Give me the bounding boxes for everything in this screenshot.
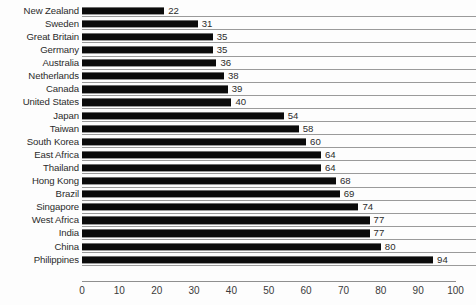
plot-area: New Zealand22Sweden31Great Britain35Germ…: [0, 0, 476, 281]
chart-row: Japan54: [0, 109, 476, 122]
bar: [82, 112, 284, 119]
bar: [82, 177, 336, 184]
category-label: Brazil: [0, 189, 79, 199]
bar: [82, 151, 321, 158]
x-tick-label: 80: [375, 285, 386, 297]
x-tick-label: 20: [151, 285, 162, 297]
chart-row: Canada39: [0, 83, 476, 96]
x-tick-label: 10: [114, 285, 125, 297]
chart-row: Hong Kong68: [0, 175, 476, 188]
chart-row: India77: [0, 227, 476, 240]
bar: [82, 217, 370, 224]
category-label: East Africa: [0, 150, 79, 160]
value-label: 74: [362, 202, 373, 212]
value-label: 77: [374, 215, 385, 225]
chart-row: Netherlands38: [0, 70, 476, 83]
chart-row: Great Britain35: [0, 30, 476, 43]
value-label: 58: [303, 124, 314, 134]
x-tick-label: 100: [447, 285, 464, 297]
x-tick-label: 30: [188, 285, 199, 297]
category-label: South Korea: [0, 137, 79, 147]
value-label: 80: [385, 242, 396, 252]
value-label: 64: [325, 150, 336, 160]
category-label: Thailand: [0, 163, 79, 173]
category-label: India: [0, 228, 79, 238]
chart-row: Sweden31: [0, 17, 476, 30]
chart-row: Australia36: [0, 57, 476, 70]
bar: [82, 256, 433, 263]
category-label: Japan: [0, 111, 79, 121]
value-label: 31: [202, 19, 213, 29]
bar: [82, 191, 340, 198]
category-label: Sweden: [0, 19, 79, 29]
chart-row: China80: [0, 240, 476, 253]
category-label: Taiwan: [0, 124, 79, 134]
chart-row: Singapore74: [0, 201, 476, 214]
chart-row: East Africa64: [0, 148, 476, 161]
value-label: 22: [168, 6, 179, 16]
bar: [82, 204, 358, 211]
x-tick-label: 70: [338, 285, 349, 297]
bar: [82, 60, 216, 67]
category-label: New Zealand: [0, 6, 79, 16]
value-label: 64: [325, 163, 336, 173]
value-label: 94: [437, 255, 448, 265]
x-tick-label: 50: [263, 285, 274, 297]
category-label: Hong Kong: [0, 176, 79, 186]
bar: [82, 33, 213, 40]
category-label: Australia: [0, 58, 79, 68]
chart-row: Thailand64: [0, 161, 476, 174]
bar: [82, 99, 231, 106]
gridline: [82, 265, 476, 266]
value-label: 36: [220, 58, 231, 68]
bar: [82, 46, 213, 53]
x-tick-label: 60: [301, 285, 312, 297]
value-label: 77: [374, 228, 385, 238]
value-label: 60: [310, 137, 321, 147]
chart-row: United States40: [0, 96, 476, 109]
chart-row: Brazil69: [0, 188, 476, 201]
category-label: West Africa: [0, 215, 79, 225]
bar: [82, 138, 306, 145]
value-label: 35: [217, 32, 228, 42]
x-axis-line: [82, 281, 456, 282]
value-label: 40: [235, 97, 246, 107]
x-axis-ticks: 0102030405060708090100: [0, 283, 476, 303]
x-tick-label: 0: [79, 285, 85, 297]
value-label: 69: [344, 189, 355, 199]
category-label: Canada: [0, 84, 79, 94]
chart-row: Germany35: [0, 44, 476, 57]
chart-row: South Korea60: [0, 135, 476, 148]
value-label: 68: [340, 176, 351, 186]
category-label: United States: [0, 97, 79, 107]
chart-row: Taiwan58: [0, 122, 476, 135]
value-label: 38: [228, 71, 239, 81]
chart-row: Philippines94: [0, 253, 476, 266]
x-tick-label: 90: [413, 285, 424, 297]
category-label: Germany: [0, 45, 79, 55]
category-label: Singapore: [0, 202, 79, 212]
bar: [82, 164, 321, 171]
bar: [82, 7, 164, 14]
chart-row: New Zealand22: [0, 4, 476, 17]
bar: [82, 125, 299, 132]
bar: [82, 243, 381, 250]
bar: [82, 86, 228, 93]
category-label: Philippines: [0, 255, 79, 265]
value-label: 54: [288, 111, 299, 121]
bar-chart: New Zealand22Sweden31Great Britain35Germ…: [0, 0, 476, 305]
bar: [82, 73, 224, 80]
x-tick-label: 40: [226, 285, 237, 297]
bar: [82, 230, 370, 237]
value-label: 35: [217, 45, 228, 55]
chart-row: West Africa77: [0, 214, 476, 227]
bar: [82, 20, 198, 27]
category-label: Great Britain: [0, 32, 79, 42]
category-label: Netherlands: [0, 71, 79, 81]
category-label: China: [0, 242, 79, 252]
value-label: 39: [232, 84, 243, 94]
